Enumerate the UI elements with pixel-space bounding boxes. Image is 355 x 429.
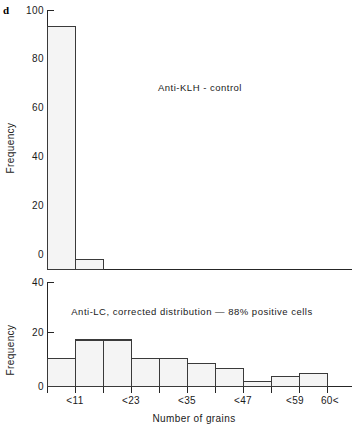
bottom-chart-bar-6: [188, 363, 216, 386]
top-chart-bar-1: [48, 26, 76, 269]
top-chart-ytick-0: 0: [38, 249, 44, 260]
bottom-chart-xlabel-6: 60<: [321, 395, 339, 406]
bottom-chart-xlabel-1: <11: [66, 395, 83, 406]
bottom-chart-bar-5: [160, 358, 188, 386]
top-chart-y-axis-title: Frequency: [5, 123, 16, 174]
bottom-chart-ytick-40: 40: [32, 277, 44, 288]
top-chart-ytick-20: 20: [32, 200, 44, 211]
bottom-chart-xlabel-3: <35: [178, 395, 196, 406]
figure-panel-d: d Frequency 100 80 60 40 20 0: [0, 0, 355, 429]
x-axis-title: Number of grains: [152, 413, 235, 424]
bottom-chart-xlabel-4: <47: [234, 395, 252, 406]
bottom-chart-ytick-20: 20: [32, 327, 44, 338]
top-chart-ytick-60: 60: [32, 102, 44, 113]
bottom-chart-bar-10: [300, 374, 328, 387]
top-chart-annotation: Anti-KLH - control: [158, 82, 242, 93]
panel-letter: d: [3, 4, 9, 16]
bottom-chart-bar-4: [132, 358, 160, 386]
bottom-chart-y-axis-title: Frequency: [5, 325, 16, 376]
bottom-chart-bar-3: [104, 340, 132, 387]
bottom-chart-annotation: Anti-LC, corrected distribution — 88% po…: [71, 306, 312, 317]
top-chart-ytick-100: 100: [26, 5, 44, 16]
bottom-chart-bar-8: [244, 381, 272, 386]
bottom-chart-bar-7: [216, 369, 244, 387]
bottom-chart-xlabel-2: <23: [122, 395, 140, 406]
top-chart-ytick-80: 80: [32, 53, 44, 64]
top-chart-bar-2: [76, 259, 104, 269]
bottom-chart: Frequency 40 20 0: [5, 277, 352, 424]
bottom-chart-bar-9: [272, 376, 300, 386]
bottom-chart-bar-1: [48, 358, 76, 386]
bottom-chart-ytick-0: 0: [38, 381, 44, 392]
top-chart-ytick-40: 40: [32, 151, 44, 162]
bottom-chart-xlabel-5: <59: [286, 395, 304, 406]
bottom-chart-bar-2: [76, 340, 104, 387]
top-chart: Frequency 100 80 60 40 20 0 Anti-KLH - c: [5, 5, 352, 270]
